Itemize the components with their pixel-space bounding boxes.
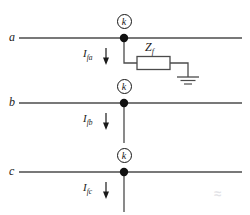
circuit-schematic [0, 0, 250, 215]
ground-lead-wire [170, 63, 188, 77]
phase-a-fault-branch-wire [124, 38, 137, 63]
current-label-fc-subscript: fc [87, 187, 92, 196]
phase-label-c: c [9, 165, 14, 177]
bus-marker-k-a: k [117, 14, 132, 29]
bus-marker-k-b: k [117, 79, 132, 94]
impedance-label-subscript: f [152, 47, 154, 56]
figure-canvas: k k k a b c Ifa Ifb Ifc Zf ≈ [0, 0, 250, 215]
fault-impedance-resistor [137, 57, 170, 70]
bus-node-dot-b [120, 99, 128, 107]
current-label-fa-subscript: fa [87, 53, 93, 62]
watermark: ≈ [214, 186, 220, 201]
current-label-fb: Ifb [83, 113, 93, 124]
bus-node-dot-a [120, 34, 128, 42]
current-label-fa: Ifa [83, 48, 93, 59]
impedance-label-symbol: Z [145, 40, 152, 54]
current-label-fb-subscript: fb [87, 118, 93, 127]
bus-marker-k-c: k [117, 148, 132, 163]
phase-label-a: a [9, 31, 15, 43]
bus-node-dot-c [120, 168, 128, 176]
current-arrow-c [103, 182, 109, 199]
phase-label-b: b [9, 96, 15, 108]
current-label-fc: Ifc [83, 182, 92, 193]
current-arrow-a [103, 48, 109, 65]
impedance-label-zf: Zf [145, 41, 154, 53]
current-arrow-b [103, 113, 109, 130]
